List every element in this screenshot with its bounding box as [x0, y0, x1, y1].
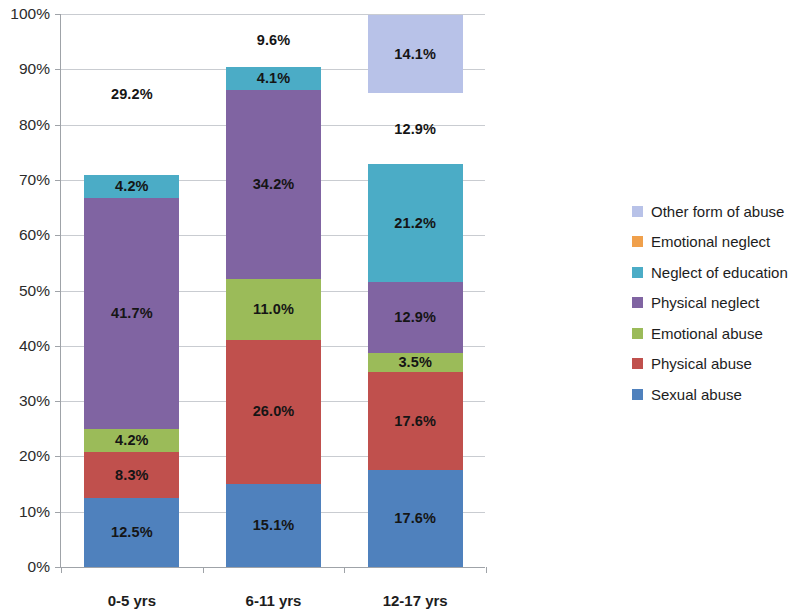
y-axis-tick: [55, 291, 61, 292]
y-axis-tick-label: 60%: [19, 226, 50, 244]
bar-segment[interactable]: 4.1%: [226, 67, 321, 90]
x-axis-tick: [203, 567, 204, 573]
x-axis-tick: [344, 567, 345, 573]
bar-segment-label: 4.2%: [115, 433, 148, 448]
bar-segment-label: 4.2%: [115, 179, 148, 194]
y-axis-tick: [55, 512, 61, 513]
legend-item-label: Sexual abuse: [651, 386, 742, 403]
y-axis-tick: [55, 456, 61, 457]
y-axis-tick: [55, 401, 61, 402]
bar-6-11-yrs[interactable]: 15.1%26.0%11.0%34.2%4.1%9.6%: [226, 14, 321, 567]
y-axis-tick-label: 20%: [19, 447, 50, 465]
bar-segment-label: 8.3%: [115, 468, 148, 483]
y-axis-tick: [55, 125, 61, 126]
bar-segment-label: 3.5%: [398, 355, 431, 370]
bar-segment-label: 26.0%: [253, 404, 295, 419]
bar-segment-label: 15.1%: [253, 518, 295, 533]
bar-segment-label: 12.9%: [394, 122, 436, 137]
bar-segment[interactable]: 4.2%: [84, 429, 179, 452]
y-axis-tick-label: 0%: [28, 558, 50, 576]
y-axis-tick-label: 30%: [19, 392, 50, 410]
bar-segment[interactable]: 15.1%: [226, 484, 321, 568]
bar-segment-label: 21.2%: [394, 216, 436, 231]
legend-color-swatch-icon: [632, 358, 643, 369]
bar-segment[interactable]: 21.2%: [368, 164, 463, 281]
legend-color-swatch-icon: [632, 328, 643, 339]
legend-item[interactable]: Other form of abuse: [632, 196, 792, 227]
chart-legend: Other form of abuseEmotional neglectNegl…: [632, 196, 792, 410]
bar-segment[interactable]: 8.3%: [84, 452, 179, 498]
bar-segment[interactable]: 17.6%: [368, 372, 463, 469]
bar-segment-label: 12.9%: [394, 310, 436, 325]
bar-segment[interactable]: 11.0%: [226, 279, 321, 340]
x-axis-tick: [486, 567, 487, 573]
bar-segment[interactable]: 26.0%: [226, 340, 321, 484]
bar-segment[interactable]: 17.6%: [368, 470, 463, 567]
legend-color-swatch-icon: [632, 297, 643, 308]
legend-color-swatch-icon: [632, 206, 643, 217]
bar-segment[interactable]: 3.5%: [368, 353, 463, 372]
bar-segment[interactable]: 12.9%: [368, 93, 463, 164]
y-axis-tick-label: 70%: [19, 171, 50, 189]
legend-item-label: Physical neglect: [651, 294, 759, 311]
bar-segment[interactable]: 29.2%: [84, 13, 179, 174]
bar-segment-label: 12.5%: [111, 525, 153, 540]
y-axis-tick: [55, 69, 61, 70]
bar-segment[interactable]: 12.9%: [368, 282, 463, 353]
bar-segment-label: 17.6%: [394, 414, 436, 429]
bar-segment[interactable]: 12.5%: [84, 498, 179, 567]
x-axis-category-label: 6-11 yrs: [246, 592, 302, 609]
bar-segment[interactable]: 9.6%: [226, 14, 321, 67]
y-axis-tick: [55, 14, 61, 15]
y-axis-tick-label: 90%: [19, 60, 50, 78]
legend-color-swatch-icon: [632, 236, 643, 247]
legend-item-label: Emotional abuse: [651, 325, 763, 342]
bar-segment-label: 9.6%: [257, 33, 290, 48]
legend-item-label: Emotional neglect: [651, 233, 770, 250]
bar-segment-label: 34.2%: [253, 177, 295, 192]
bar-segment-label: 11.0%: [253, 302, 294, 317]
bar-segment-label: 17.6%: [394, 511, 436, 526]
legend-item[interactable]: Physical abuse: [632, 349, 792, 380]
legend-item[interactable]: Emotional neglect: [632, 227, 792, 258]
y-axis-tick: [55, 235, 61, 236]
legend-color-swatch-icon: [632, 389, 643, 400]
bar-segment-label: 41.7%: [111, 306, 153, 321]
bar-segment-label: 14.1%: [394, 47, 436, 62]
y-axis-tick-label: 80%: [19, 116, 50, 134]
bar-segment[interactable]: 34.2%: [226, 90, 321, 279]
x-axis-tick: [61, 567, 62, 573]
legend-item[interactable]: Physical neglect: [632, 288, 792, 319]
y-axis-tick: [55, 180, 61, 181]
y-axis-tick: [55, 346, 61, 347]
legend-item-label: Physical abuse: [651, 355, 752, 372]
y-axis-tick-label: 50%: [19, 282, 50, 300]
bar-segment[interactable]: 4.2%: [84, 175, 179, 198]
plot-area: 0%10%20%30%40%50%60%70%80%90%100% 12.5%8…: [60, 14, 485, 568]
bar-segment-label: 4.1%: [257, 71, 290, 86]
y-axis-tick-label: 40%: [19, 337, 50, 355]
bar-segment-label: 29.2%: [111, 87, 153, 102]
bar-0-5-yrs[interactable]: 12.5%8.3%4.2%41.7%4.2%29.2%: [84, 14, 179, 567]
legend-item-label: Neglect of education: [651, 264, 788, 281]
y-axis-tick-label: 100%: [10, 5, 50, 23]
bar-segment[interactable]: 14.1%: [368, 15, 463, 93]
legend-item[interactable]: Emotional abuse: [632, 318, 792, 349]
legend-color-swatch-icon: [632, 267, 643, 278]
legend-item[interactable]: Neglect of education: [632, 257, 792, 288]
legend-item-label: Other form of abuse: [651, 203, 784, 220]
y-axis-tick-label: 10%: [19, 503, 50, 521]
bar-segment[interactable]: 41.7%: [84, 198, 179, 429]
legend-item[interactable]: Sexual abuse: [632, 379, 792, 410]
x-axis-category-label: 0-5 yrs: [108, 592, 156, 609]
x-axis-category-label: 12-17 yrs: [383, 592, 448, 609]
bar-12-17-yrs[interactable]: 17.6%17.6%3.5%12.9%21.2%12.9%14.1%: [368, 14, 463, 567]
